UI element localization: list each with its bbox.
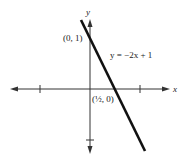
graph: y x (0, 1) y = −2x + 1 (½, 0) — [0, 0, 187, 162]
y-axis-label: y — [85, 7, 90, 17]
arrow-up-icon — [88, 19, 93, 27]
arrow-right-icon — [162, 87, 170, 92]
arrow-left-icon — [10, 87, 18, 92]
x-intercept-label: (½, 0) — [92, 94, 114, 104]
arrow-down-icon — [88, 146, 93, 154]
x-axis-label: x — [172, 84, 177, 94]
y-intercept-label: (0, 1) — [63, 33, 83, 43]
line-series — [81, 20, 145, 151]
equation-label: y = −2x + 1 — [110, 50, 152, 60]
